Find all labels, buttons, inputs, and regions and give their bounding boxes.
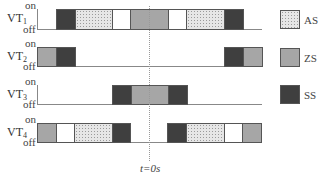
legend-swatch [280,85,300,104]
signal-name: VT3 [7,88,27,104]
signal-subscript: 2 [23,55,27,64]
segment-zs [37,47,57,67]
segment-w [56,123,75,143]
time-zero-label: t=0s [140,163,160,174]
signal-subscript: 1 [23,17,27,26]
segment-w [168,9,187,30]
segment-ss [224,9,244,30]
on-label: on [25,114,36,125]
axis-tick [37,9,38,30]
axis-tick [37,85,38,105]
segment-as [75,9,113,30]
segment-w [224,123,243,143]
segment-ss [112,85,132,105]
on-label: on [25,76,36,87]
segment-zs [37,123,57,143]
signal-name: VT1 [7,12,27,28]
on-label: on [25,0,36,11]
segment-w [112,9,131,30]
segment-ss [56,9,76,30]
legend-label: ZS [304,53,317,64]
segment-as [74,123,113,143]
timing-diagram: onoffVT1onoffVT2onoffVT3onoffVT4 ASZSSS … [0,0,321,179]
segment-ss [112,123,131,143]
segment-ss [168,85,188,105]
legend-label: AS [304,15,318,26]
signal-name-text: VT [7,49,23,63]
segment-zs [243,47,263,67]
segment-zs [242,123,262,143]
time-zero-marker-line [149,6,150,161]
segment-as [186,9,225,30]
segment-zs [131,85,169,105]
signal-name-text: VT [7,125,23,139]
legend-label: SS [304,90,316,101]
signal-name-text: VT [7,87,23,101]
signal-subscript: 4 [23,131,27,140]
on-label: on [25,38,36,49]
segment-ss [167,123,187,143]
segment-ss [224,47,244,67]
legend-swatch [280,48,300,67]
segment-ss [56,47,76,67]
segment-as [186,123,225,143]
signal-name-text: VT [7,11,23,25]
signal-name: VT4 [7,126,27,142]
signal-name: VT2 [7,50,27,66]
signal-subscript: 3 [23,93,27,102]
legend-swatch [280,10,300,29]
